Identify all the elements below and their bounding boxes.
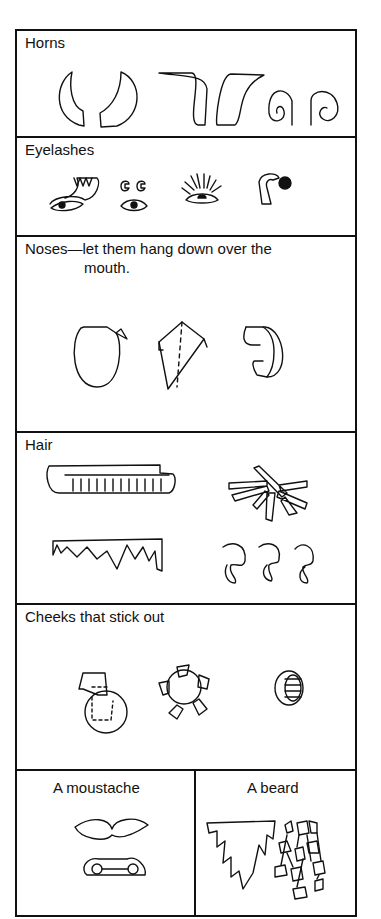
cheeks-illustration (17, 605, 357, 771)
section-facial-hair: A moustache A beard (17, 771, 355, 917)
page-header-fragment (261, 0, 381, 8)
noses-illustration (17, 237, 357, 433)
section-eyelashes: Eyelashes (17, 138, 355, 237)
section-cheeks: Cheeks that stick out (17, 605, 355, 771)
section-horns: Horns (17, 31, 355, 138)
facial-hair-illustration (17, 771, 357, 917)
hair-illustration (17, 433, 357, 605)
section-noses: Noses—let them hang down over the mouth. (17, 237, 355, 433)
horns-illustration (17, 31, 357, 138)
features-chart: Horns Eyelashes Nos (15, 29, 357, 917)
eyelashes-illustration (17, 138, 357, 237)
section-hair: Hair (17, 433, 355, 605)
